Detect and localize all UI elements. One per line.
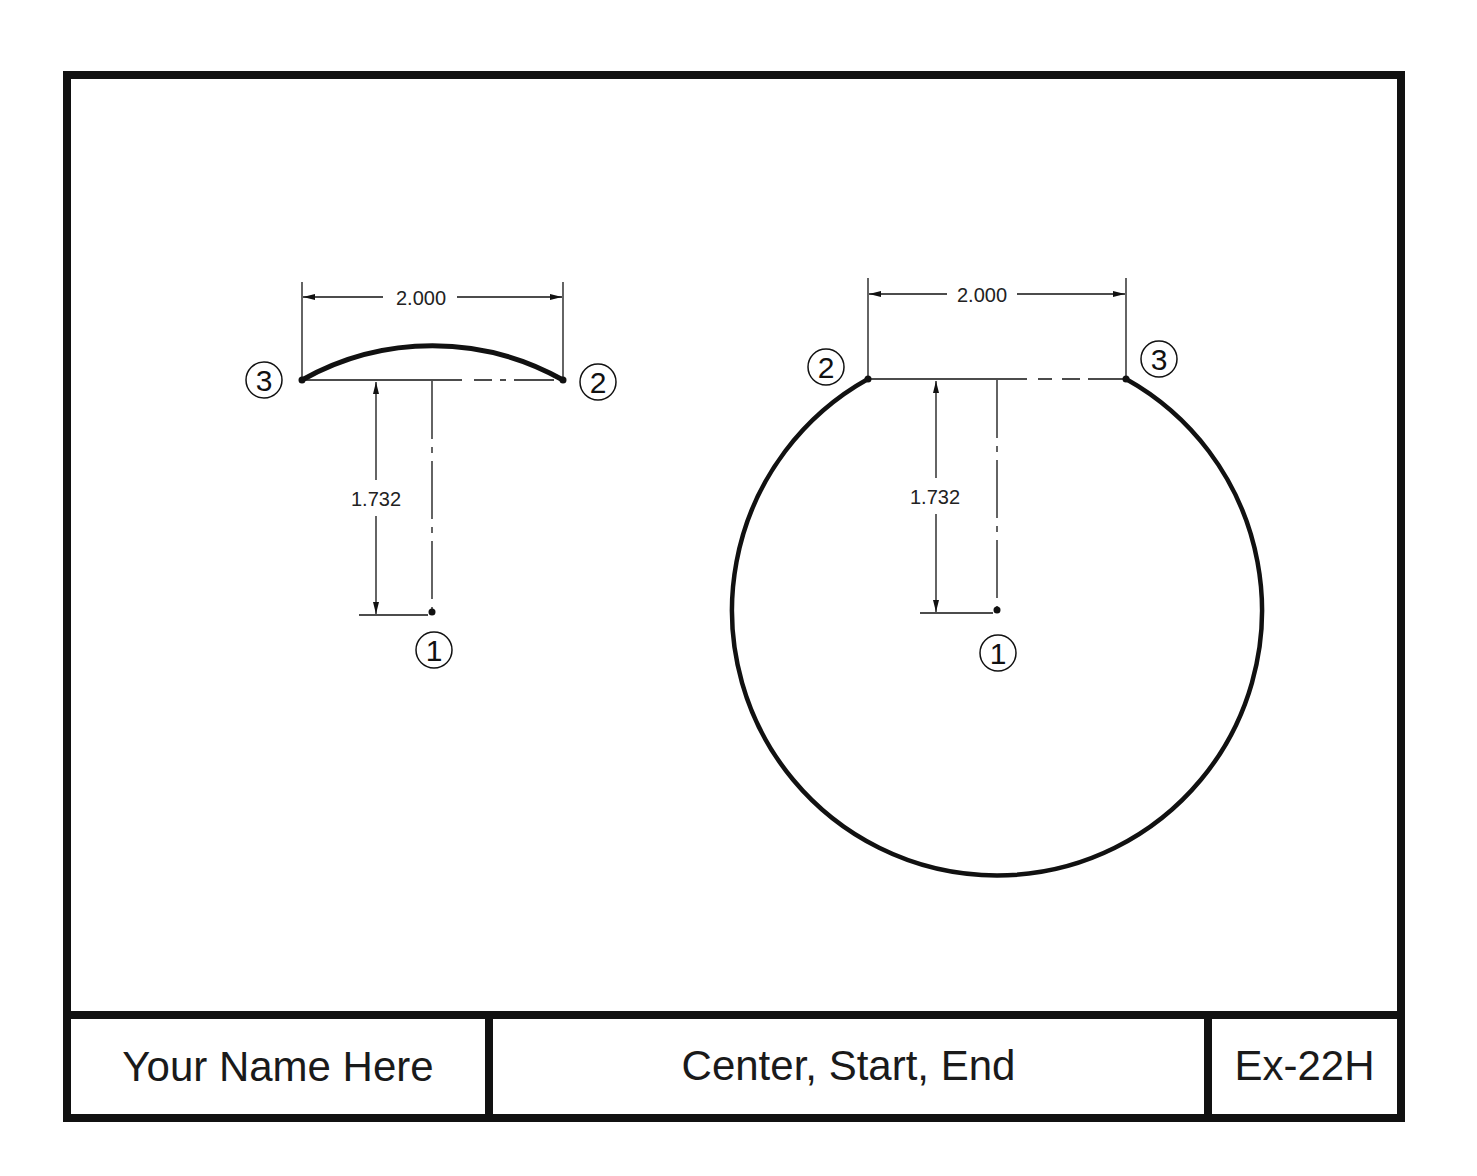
center-point bbox=[994, 607, 1001, 614]
left-figure: 1.732 2.000 3 2 1 bbox=[246, 282, 616, 668]
svg-text:3: 3 bbox=[256, 364, 273, 397]
arc bbox=[732, 379, 1262, 875]
svg-text:3: 3 bbox=[1151, 343, 1168, 376]
right-figure: 2.000 1.732 2 3 1 bbox=[732, 278, 1262, 875]
svg-text:2: 2 bbox=[818, 351, 835, 384]
title-block-title: Center, Start, End bbox=[493, 1019, 1204, 1112]
height-dim-text: 1.732 bbox=[910, 486, 960, 508]
width-dim-text: 2.000 bbox=[396, 287, 446, 309]
svg-text:1: 1 bbox=[990, 637, 1007, 670]
height-dim-text: 1.732 bbox=[351, 488, 401, 510]
arc bbox=[302, 346, 563, 380]
label-end-3: 3 bbox=[1141, 341, 1177, 377]
title-block-number: Ex-22H bbox=[1212, 1019, 1397, 1112]
label-center-1: 1 bbox=[416, 632, 452, 668]
label-center-1: 1 bbox=[980, 635, 1016, 671]
svg-text:1: 1 bbox=[426, 634, 443, 667]
label-start-2: 2 bbox=[808, 349, 844, 385]
label-end-3: 3 bbox=[246, 362, 282, 398]
drawing-sheet: 1.732 2.000 3 2 1 2.000 bbox=[0, 0, 1477, 1176]
label-start-2: 2 bbox=[580, 364, 616, 400]
width-dim-text: 2.000 bbox=[957, 284, 1007, 306]
center-point bbox=[429, 609, 436, 616]
title-block-name: Your Name Here bbox=[71, 1019, 485, 1114]
svg-text:2: 2 bbox=[590, 366, 607, 399]
